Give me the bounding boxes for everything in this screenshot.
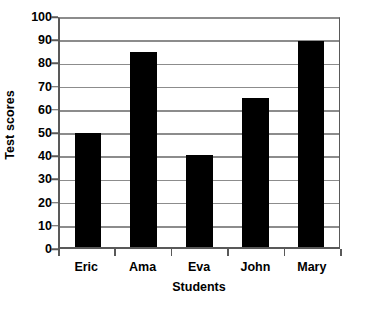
x-axis-tick-label: Ama xyxy=(114,256,170,278)
y-axis-tick-label: 100 xyxy=(31,11,52,24)
x-axis-tick-labels: EricAmaEvaJohnMary xyxy=(58,256,340,278)
bar-chart-figure: Test scores 0102030405060708090100 EricA… xyxy=(0,0,366,309)
x-axis-tick-mark xyxy=(171,249,173,256)
y-axis-tick-label: 60 xyxy=(38,104,52,117)
bar-slot xyxy=(60,18,116,247)
y-axis-tick-mark xyxy=(51,63,58,65)
x-axis-tick-label: Eva xyxy=(171,256,227,278)
x-axis-tick-mark xyxy=(340,249,342,256)
y-axis-tick-labels: 0102030405060708090100 xyxy=(18,17,52,249)
x-axis-tick-mark xyxy=(114,249,116,256)
y-axis-tick-label: 40 xyxy=(38,150,52,163)
y-axis-tick-label: 10 xyxy=(38,220,52,233)
y-axis-tick-label: 70 xyxy=(38,80,52,93)
bar-slot xyxy=(227,18,283,247)
y-axis-tick-mark xyxy=(51,16,58,18)
y-axis-tick-mark xyxy=(51,202,58,204)
plot-area xyxy=(58,17,340,249)
y-axis-tick-label: 20 xyxy=(38,196,52,209)
y-axis-tick-mark xyxy=(51,39,58,41)
y-axis-tick-label: 30 xyxy=(38,173,52,186)
bar-ama[interactable] xyxy=(130,52,157,247)
y-axis-tick-mark xyxy=(51,109,58,111)
x-axis-tick-mark xyxy=(284,249,286,256)
bar-eva[interactable] xyxy=(186,155,213,247)
bar-slot xyxy=(172,18,228,247)
x-axis-tick-label: Eric xyxy=(58,256,114,278)
x-axis-tick-label: Mary xyxy=(284,256,340,278)
y-axis-title: Test scores xyxy=(0,0,20,249)
x-axis-tick-mark xyxy=(58,249,60,256)
y-axis-tick-label: 90 xyxy=(38,34,52,47)
bar-series xyxy=(60,18,339,247)
x-axis-title: Students xyxy=(58,280,340,294)
y-axis-tick-mark xyxy=(51,225,58,227)
x-axis-tick-mark xyxy=(227,249,229,256)
y-axis-tick-label: 50 xyxy=(38,127,52,140)
bar-slot xyxy=(283,18,339,247)
y-axis-tick-mark xyxy=(51,179,58,181)
y-axis-tick-mark xyxy=(51,248,58,250)
x-axis-tick-label: John xyxy=(227,256,283,278)
y-axis-tick-label: 80 xyxy=(38,57,52,70)
y-axis-tick-mark xyxy=(51,155,58,157)
y-axis-tick-mark xyxy=(51,86,58,88)
bar-mary[interactable] xyxy=(298,41,325,247)
y-axis-tick-mark xyxy=(51,132,58,134)
bar-john[interactable] xyxy=(242,98,269,247)
bar-slot xyxy=(116,18,172,247)
x-axis-tick-marks xyxy=(58,249,340,256)
y-axis-title-text: Test scores xyxy=(3,90,17,160)
bar-eric[interactable] xyxy=(75,133,102,248)
